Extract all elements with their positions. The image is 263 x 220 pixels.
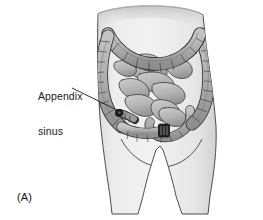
panel-caption: (A) xyxy=(17,192,32,204)
colostomy-stoma xyxy=(159,124,170,137)
figure-panel-a: Appendix sinus (A) xyxy=(0,0,263,220)
annotation-line-1: Appendix xyxy=(38,91,83,103)
annotation-label: Appendix sinus xyxy=(38,68,83,160)
annotation-line-2: sinus xyxy=(38,126,83,138)
